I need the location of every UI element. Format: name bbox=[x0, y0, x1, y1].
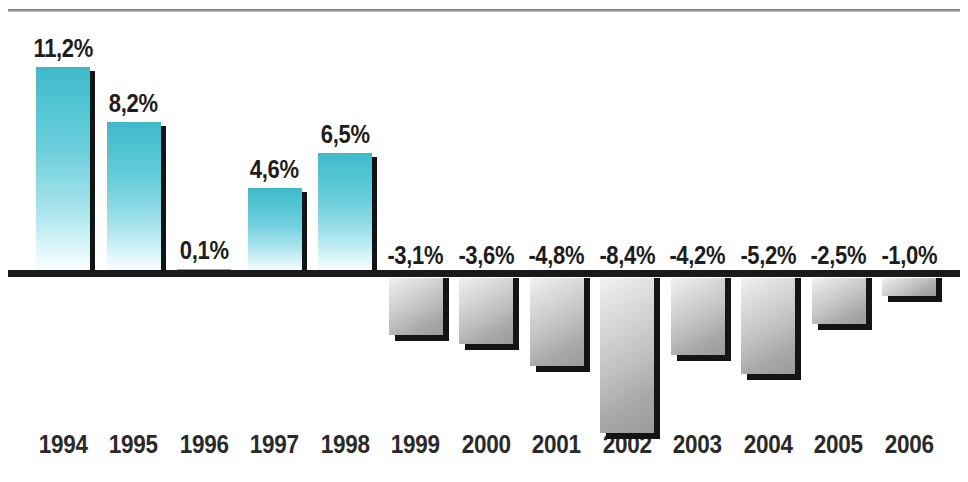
bar-negative-2003 bbox=[671, 278, 725, 355]
bar-slot bbox=[803, 12, 874, 416]
bar-positive-1994 bbox=[36, 67, 90, 273]
bar-shadow-right-2003 bbox=[725, 278, 731, 355]
bar-negative-2001 bbox=[530, 278, 584, 366]
value-label-1995: 8,2% bbox=[102, 89, 164, 118]
bar-positive-1995 bbox=[107, 122, 161, 273]
bar-shadow-1997 bbox=[302, 192, 307, 273]
value-label-2002: -8,4% bbox=[596, 241, 658, 270]
bar-shadow-bottom-2000 bbox=[465, 344, 519, 350]
bar-shadow-bottom-1999 bbox=[395, 335, 449, 341]
bar-shadow-right-2000 bbox=[513, 278, 519, 344]
bar-negative-2000 bbox=[459, 278, 513, 344]
value-label-1997: 4,6% bbox=[243, 155, 305, 184]
bar-positive-1997 bbox=[248, 188, 302, 273]
value-label-1998: 6,5% bbox=[314, 120, 376, 149]
bar-shadow-bottom-2002 bbox=[606, 433, 660, 439]
year-label-2005: 2005 bbox=[807, 430, 870, 459]
x-axis-labels: 1994199519961997199819992000200120022003… bbox=[0, 430, 968, 470]
value-label-1996: 0,1% bbox=[173, 236, 235, 265]
bar-negative-2002 bbox=[600, 278, 654, 433]
bar-shadow-right-2006 bbox=[936, 278, 942, 296]
bar-slot bbox=[451, 12, 522, 416]
bar-shadow-bottom-2001 bbox=[536, 366, 590, 372]
bar-shadow-right-1999 bbox=[443, 278, 449, 335]
value-label-2003: -4,2% bbox=[666, 241, 728, 270]
bar-positive-1998 bbox=[318, 153, 372, 273]
year-label-2004: 2004 bbox=[736, 430, 799, 459]
value-label-2004: -5,2% bbox=[737, 241, 799, 270]
bar-shadow-1994 bbox=[90, 71, 95, 273]
bar-shadow-right-2002 bbox=[654, 278, 660, 433]
year-label-1997: 1997 bbox=[243, 430, 306, 459]
bar-negative-2004 bbox=[741, 278, 795, 374]
year-label-1998: 1998 bbox=[313, 430, 376, 459]
plot-area: 11,2%8,2%0,1%4,6%6,5%-3,1%-3,6%-4,8%-8,4… bbox=[0, 12, 968, 416]
bar-slot bbox=[380, 12, 451, 416]
bar-shadow-bottom-2003 bbox=[677, 355, 731, 361]
year-label-1996: 1996 bbox=[172, 430, 235, 459]
bar-chart: 11,2%8,2%0,1%4,6%6,5%-3,1%-3,6%-4,8%-8,4… bbox=[0, 0, 968, 482]
bar-shadow-right-2004 bbox=[795, 278, 801, 374]
year-label-1999: 1999 bbox=[384, 430, 447, 459]
bar-shadow-bottom-2005 bbox=[818, 324, 872, 330]
year-label-2000: 2000 bbox=[454, 430, 517, 459]
value-label-1999: -3,1% bbox=[384, 241, 446, 270]
zero-axis-line bbox=[8, 270, 960, 277]
bar-shadow-1995 bbox=[161, 126, 166, 273]
value-label-1994: 11,2% bbox=[32, 34, 94, 63]
bar-shadow-bottom-2006 bbox=[888, 296, 942, 302]
value-label-2000: -3,6% bbox=[455, 241, 517, 270]
year-label-2006: 2006 bbox=[877, 430, 940, 459]
bar-negative-2006 bbox=[882, 278, 936, 296]
bar-shadow-1998 bbox=[372, 157, 377, 273]
value-label-2006: -1,0% bbox=[878, 241, 940, 270]
bar-slot bbox=[169, 12, 240, 416]
year-label-1995: 1995 bbox=[102, 430, 165, 459]
bar-shadow-right-2001 bbox=[584, 278, 590, 366]
year-label-2001: 2001 bbox=[525, 430, 588, 459]
bar-shadow-right-2005 bbox=[866, 278, 872, 324]
bar-shadow-bottom-2004 bbox=[747, 374, 801, 380]
bar-slot bbox=[874, 12, 945, 416]
bar-negative-2005 bbox=[812, 278, 866, 324]
year-label-1994: 1994 bbox=[31, 430, 94, 459]
year-label-2003: 2003 bbox=[666, 430, 729, 459]
value-label-2001: -4,8% bbox=[525, 241, 587, 270]
value-label-2005: -2,5% bbox=[807, 241, 869, 270]
bar-negative-1999 bbox=[389, 278, 443, 335]
